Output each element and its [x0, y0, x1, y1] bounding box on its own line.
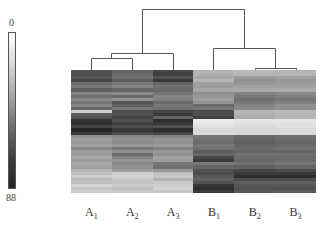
heatmap-column	[275, 70, 316, 193]
heatmap-cell	[275, 190, 316, 193]
colorbar-max-label: 88	[6, 192, 16, 203]
heatmap-cell	[153, 190, 194, 193]
heatmap-cell	[112, 190, 153, 193]
heatmap-column	[193, 70, 234, 193]
column-label: B3	[281, 205, 311, 221]
column-label: A1	[76, 205, 106, 221]
heatmap-cell	[71, 190, 112, 193]
heatmap-cell	[234, 190, 275, 193]
column-label: B1	[199, 205, 229, 221]
heatmap-column	[234, 70, 275, 193]
heatmap-column	[112, 70, 153, 193]
column-label: A3	[158, 205, 188, 221]
heatmap-cell	[193, 190, 234, 193]
column-label: A2	[117, 205, 147, 221]
dendrogram	[0, 0, 322, 72]
heatmap	[71, 70, 316, 193]
heatmap-column	[71, 70, 112, 193]
column-label: B2	[240, 205, 270, 221]
heatmap-column	[153, 70, 194, 193]
